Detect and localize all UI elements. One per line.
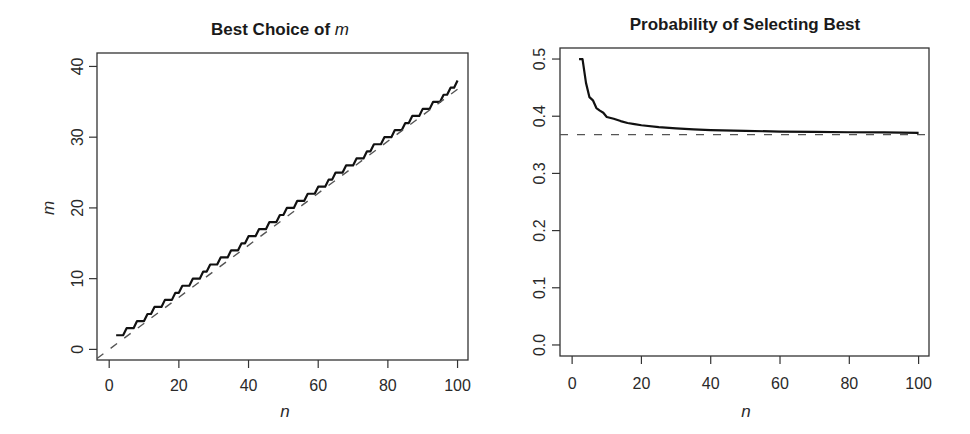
y-tick-label: 30 — [69, 128, 86, 146]
x-tick-label: 60 — [309, 377, 327, 394]
y-tick-label: 0.1 — [531, 277, 548, 299]
chart-title: Probability of Selecting Best — [630, 15, 861, 34]
chart-best-choice-of-m: Best Choice of m 020406080100 010203040 … — [39, 20, 471, 421]
y-tick-label: 10 — [69, 270, 86, 288]
plot-lines — [560, 59, 929, 135]
x-tick-label: 0 — [105, 377, 114, 394]
plot-frame — [97, 53, 468, 360]
y-axis: 010203040 — [69, 57, 97, 353]
y-tick-label: 0.2 — [531, 219, 548, 241]
y-axis-label: m — [39, 201, 58, 215]
x-tick-label: 40 — [702, 375, 720, 392]
x-tick-label: 100 — [444, 377, 471, 394]
y-axis: 0.00.10.20.30.40.5 — [531, 48, 560, 356]
y-tick-label: 20 — [69, 199, 86, 217]
x-tick-label: 20 — [633, 375, 651, 392]
reference-line — [97, 89, 458, 358]
y-tick-label: 0.4 — [531, 105, 548, 127]
data-line — [116, 81, 457, 336]
x-axis: 020406080100 — [105, 360, 471, 394]
chart-title: Best Choice of m — [211, 20, 349, 39]
plot-lines — [97, 81, 458, 359]
x-tick-label: 100 — [905, 375, 932, 392]
x-tick-label: 80 — [840, 375, 858, 392]
y-tick-label: 0.0 — [531, 334, 548, 356]
x-tick-label: 0 — [568, 375, 577, 392]
x-tick-label: 20 — [170, 377, 188, 394]
plot-frame — [560, 48, 929, 356]
x-axis-label: n — [741, 402, 750, 421]
x-axis: 020406080100 — [568, 356, 932, 392]
y-tick-label: 0.5 — [531, 48, 548, 70]
y-tick-label: 0 — [69, 345, 86, 354]
x-tick-label: 80 — [379, 377, 397, 394]
data-line — [579, 59, 919, 133]
y-tick-label: 0.3 — [531, 162, 548, 184]
y-tick-label: 40 — [69, 57, 86, 75]
x-tick-label: 40 — [240, 377, 258, 394]
x-axis-label: n — [280, 402, 289, 421]
figure: Best Choice of m 020406080100 010203040 … — [0, 0, 970, 434]
x-tick-label: 60 — [771, 375, 789, 392]
chart-probability-of-selecting-best: Probability of Selecting Best 0204060801… — [531, 15, 932, 421]
